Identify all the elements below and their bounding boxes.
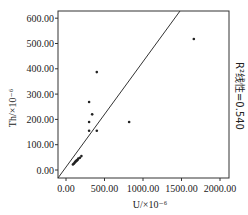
data-points bbox=[72, 38, 195, 166]
x-tick-label: 1500.00 bbox=[165, 183, 198, 194]
data-point bbox=[88, 101, 91, 104]
x-tick-label: 500.00 bbox=[91, 183, 119, 194]
y-tick-label: 300.00 bbox=[27, 89, 55, 100]
x-tick-label: 2000.00 bbox=[204, 183, 237, 194]
data-point bbox=[91, 113, 94, 116]
data-point bbox=[88, 121, 91, 124]
y-axis: 0.00100.00200.00300.00400.00500.00600.00 bbox=[27, 13, 59, 176]
data-point bbox=[88, 129, 91, 132]
plot-area bbox=[58, 11, 229, 178]
y-tick-label: 500.00 bbox=[27, 38, 55, 49]
y-tick-label: 200.00 bbox=[27, 114, 55, 125]
data-point bbox=[128, 121, 131, 124]
regression-line bbox=[58, 11, 180, 178]
y-axis-title: Th/×10⁻⁶ bbox=[7, 88, 18, 127]
x-tick-label: 0.00 bbox=[57, 183, 75, 194]
r-squared-annotation: R²线性=0.540 bbox=[234, 62, 246, 130]
y-tick-label: 0.00 bbox=[37, 165, 55, 176]
y-tick-label: 100.00 bbox=[27, 139, 55, 150]
data-point bbox=[96, 71, 99, 74]
data-point bbox=[96, 129, 99, 132]
x-axis-title: U/×10⁻⁶ bbox=[133, 199, 168, 210]
data-point bbox=[193, 38, 196, 41]
scatter-chart: 0.00100.00200.00300.00400.00500.00600.00… bbox=[0, 0, 248, 215]
x-tick-label: 1000.00 bbox=[127, 183, 160, 194]
y-tick-label: 600.00 bbox=[27, 13, 55, 24]
x-axis: 0.00500.001000.001500.002000.00 bbox=[57, 178, 236, 194]
data-point bbox=[72, 163, 75, 166]
y-tick-label: 400.00 bbox=[27, 63, 55, 74]
